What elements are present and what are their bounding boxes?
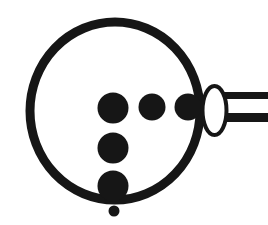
row-dot-2 [139,94,166,121]
diagram-svg [0,0,268,225]
figure-canvas: Magnifier glyph with dot cluster Black l… [0,0,268,225]
lens-bead [203,86,227,135]
column-dot-1 [98,133,129,164]
row-dot-1 [98,93,129,124]
column-dot-2 [98,171,129,202]
handle-top-bar [222,92,268,99]
row-dot-3 [175,94,202,121]
column-dot-3 [109,206,120,217]
handle-bottom-bar [222,113,268,122]
